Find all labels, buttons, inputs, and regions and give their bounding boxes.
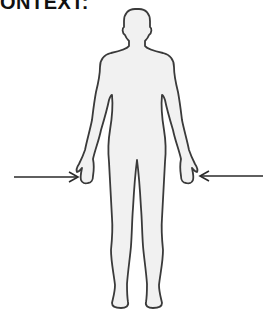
body-diagram — [0, 0, 268, 313]
left-hand-arrow — [14, 172, 78, 182]
right-hand-arrow — [200, 171, 263, 181]
human-body-outline — [77, 9, 198, 308]
body-silhouette — [77, 9, 198, 308]
